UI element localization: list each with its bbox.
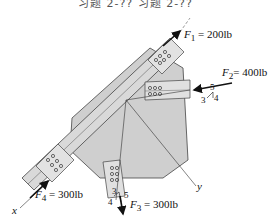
- slope-f2-a: 3: [201, 95, 206, 105]
- label-f3: F3 = 300lb: [130, 198, 178, 213]
- gusset-plate-diagram: [0, 0, 279, 218]
- label-f1: F1 = 200lb: [184, 28, 232, 43]
- y-axis-label: y: [197, 180, 202, 192]
- slope-f2-b: 4: [214, 93, 219, 103]
- slope-f2-hyp: 5: [210, 82, 215, 92]
- slope-f3-b: 4: [108, 197, 113, 207]
- x-axis-label: x: [12, 204, 17, 216]
- slope-f3-hyp: 5: [124, 190, 129, 200]
- label-f2: F2= 400lb: [222, 66, 267, 81]
- gusset-plate: [70, 48, 188, 178]
- slope-f3-a: 3: [112, 186, 117, 196]
- label-f4: F4 = 300lb: [35, 188, 83, 203]
